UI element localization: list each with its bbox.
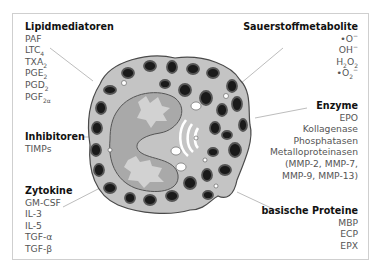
list-item: IL-3 — [25, 208, 72, 220]
group-title: basische Proteine — [262, 205, 359, 217]
group-inhibitoren: Inhibitoren TIMPs — [25, 131, 85, 154]
list-item: Phosphatasen — [270, 135, 358, 147]
list-item: •O2− — [243, 67, 358, 79]
list-item: ECP — [262, 228, 359, 240]
group-zytokine: Zytokine GM-CSF IL-3 IL-5 TGF-α TGF-β — [25, 185, 72, 255]
group-title: Enzyme — [270, 100, 358, 112]
list-item: EPX — [262, 240, 359, 252]
list-item: TIMPs — [25, 143, 85, 155]
list-item: TXA2 — [25, 56, 114, 68]
list-item: Kollagenase — [270, 123, 358, 135]
group-title: Sauerstoffmetabolite — [243, 21, 358, 33]
group-title: Lipidmediatoren — [25, 21, 114, 33]
list-item: PAF — [25, 33, 114, 45]
list-item: H2O2 — [243, 56, 358, 68]
list-item: LTC4 — [25, 44, 114, 56]
list-item: •O− — [243, 33, 358, 45]
list-item: OH− — [243, 44, 358, 56]
list-item: MBP — [262, 217, 359, 229]
list-item: (MMP-2, MMP-7, — [270, 158, 358, 170]
list-item: IL-5 — [25, 220, 72, 232]
list-item: PGE2 — [25, 67, 114, 79]
group-enzyme: Enzyme EPO Kollagenase Phosphatasen Meta… — [270, 100, 358, 181]
group-lipidmediatoren: Lipidmediatoren PAF LTC4 TXA2 PGE2 PGD2 … — [25, 21, 114, 102]
list-item: EPO — [270, 112, 358, 124]
list-item: PGF2α — [25, 91, 114, 103]
group-basische-proteine: basische Proteine MBP ECP EPX — [262, 205, 359, 251]
list-item: GM-CSF — [25, 197, 72, 209]
list-item: PGD2 — [25, 79, 114, 91]
list-item: TGF-α — [25, 231, 72, 243]
list-item: MMP-9, MMP-13) — [270, 170, 358, 182]
group-title: Zytokine — [25, 185, 72, 197]
list-item: Metalloproteinasen — [270, 146, 358, 158]
group-sauerstoffmetabolite: Sauerstoffmetabolite •O− OH− H2O2 •O2− — [243, 21, 358, 79]
group-title: Inhibitoren — [25, 131, 85, 143]
list-item: TGF-β — [25, 243, 72, 255]
